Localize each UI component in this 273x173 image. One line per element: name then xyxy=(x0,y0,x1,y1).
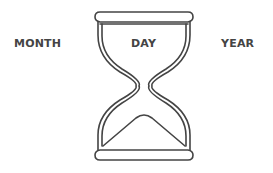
day-label: DAY xyxy=(131,37,156,50)
year-label: YEAR xyxy=(221,37,254,50)
month-label: MONTH xyxy=(14,37,61,50)
hourglass-icon xyxy=(0,0,273,173)
